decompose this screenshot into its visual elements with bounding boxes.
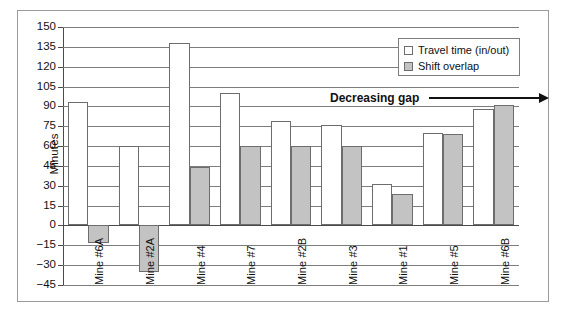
y-axis-tick-label: 150 xyxy=(24,21,56,33)
gridline xyxy=(63,27,519,28)
legend-item: Shift overlap xyxy=(404,58,519,74)
y-axis-tick-label: −30 xyxy=(24,259,56,271)
bar-travel-time xyxy=(169,43,189,226)
x-axis-category-label: Mine #2B xyxy=(296,238,308,285)
x-axis-category-label: Mine #4 xyxy=(195,246,207,286)
legend-label-shift-overlap: Shift overlap xyxy=(418,60,479,72)
bar-travel-time xyxy=(372,184,392,225)
chart-legend: Travel time (in/out) Shift overlap xyxy=(398,38,520,76)
right-arrow-icon xyxy=(429,93,549,103)
bar-shift-overlap xyxy=(190,167,210,225)
bar-shift-overlap xyxy=(494,105,514,225)
bar-travel-time xyxy=(271,121,291,226)
bar-shift-overlap xyxy=(240,146,260,225)
gridline xyxy=(63,106,519,107)
gridline xyxy=(63,285,519,286)
bar-travel-time xyxy=(220,93,240,225)
bar-travel-time xyxy=(321,125,341,226)
y-axis-tick-label: −15 xyxy=(24,239,56,251)
bar-shift-overlap xyxy=(392,194,412,226)
legend-swatch-travel-time xyxy=(404,46,413,55)
y-axis-tick-label: 15 xyxy=(24,200,56,212)
legend-item: Travel time (in/out) xyxy=(404,42,519,58)
x-axis-category-label: Mine #1 xyxy=(397,246,409,286)
bar-travel-time xyxy=(473,109,493,225)
y-axis-tick-label: 105 xyxy=(24,81,56,93)
legend-swatch-shift-overlap xyxy=(404,62,413,71)
y-axis-tick-label: 0 xyxy=(24,219,56,231)
bar-travel-time xyxy=(68,102,88,225)
x-axis-category-label: Mine #2A xyxy=(144,238,156,285)
bar-shift-overlap xyxy=(443,134,463,225)
y-axis-title: Minutes xyxy=(48,94,60,214)
gridline xyxy=(63,87,519,88)
legend-label-travel-time: Travel time (in/out) xyxy=(418,44,509,56)
decreasing-gap-annotation: Decreasing gap xyxy=(330,91,549,105)
bar-shift-overlap xyxy=(291,146,311,225)
x-axis-category-label: Mine #7 xyxy=(245,246,257,286)
bar-travel-time xyxy=(423,133,443,226)
gridline xyxy=(63,225,519,226)
bar-travel-time xyxy=(119,146,139,225)
y-axis-tick-label: −45 xyxy=(24,279,56,291)
x-axis-category-label: Mine #5 xyxy=(448,246,460,286)
y-axis-tick-label: 90 xyxy=(24,100,56,112)
gridline xyxy=(63,126,519,127)
chart-figure: Minutes 1501351201059075604530150−15−30−… xyxy=(0,0,567,322)
x-axis-category-label: Mine #3 xyxy=(347,246,359,286)
x-axis-category-label: Mine #6A xyxy=(93,238,105,285)
x-axis-category-label: Mine #6B xyxy=(499,238,511,285)
y-axis-tick-label: 135 xyxy=(24,41,56,53)
y-axis-tick-label: 30 xyxy=(24,180,56,192)
y-axis-tick-label: 75 xyxy=(24,120,56,132)
annotation-label: Decreasing gap xyxy=(330,91,419,105)
y-axis-tick-label: 45 xyxy=(24,160,56,172)
y-axis-tick-label: 60 xyxy=(24,140,56,152)
y-axis-tick-label: 120 xyxy=(24,61,56,73)
bar-shift-overlap xyxy=(342,146,362,225)
